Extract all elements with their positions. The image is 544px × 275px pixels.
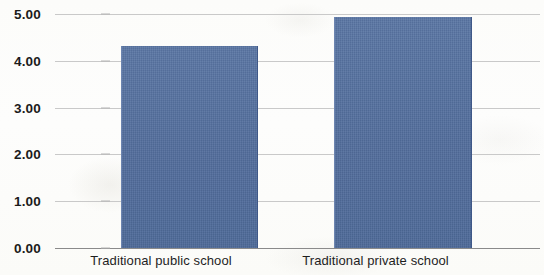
x-axis-label-traditional-private-school: Traditional private school xyxy=(273,253,478,268)
y-tick-4 xyxy=(101,60,110,61)
y-tick-5 xyxy=(101,14,110,15)
x-axis-label-traditional-public-school: Traditional public school xyxy=(61,253,261,268)
y-tick-2 xyxy=(101,154,110,155)
y-tick-1 xyxy=(101,201,110,202)
y-tick-0 xyxy=(101,248,110,249)
y-axis-label-3: 3.00 xyxy=(0,100,41,115)
y-axis-label-5: 5.00 xyxy=(0,7,41,22)
y-axis-label-4: 4.00 xyxy=(0,53,41,68)
y-axis-label-2: 2.00 xyxy=(0,147,41,162)
bar-chart: 5.00 4.00 3.00 2.00 1.00 0.00 Traditiona… xyxy=(0,0,544,275)
y-tick-3 xyxy=(101,107,110,108)
bar-traditional-private-school xyxy=(334,17,472,248)
y-axis-label-1: 1.00 xyxy=(0,194,41,209)
gridline-5 xyxy=(55,14,540,15)
plot-area: 5.00 4.00 3.00 2.00 1.00 0.00 xyxy=(55,14,540,248)
y-axis-label-0: 0.00 xyxy=(0,241,41,256)
bar-traditional-public-school xyxy=(121,46,258,248)
x-axis-line xyxy=(55,248,540,249)
